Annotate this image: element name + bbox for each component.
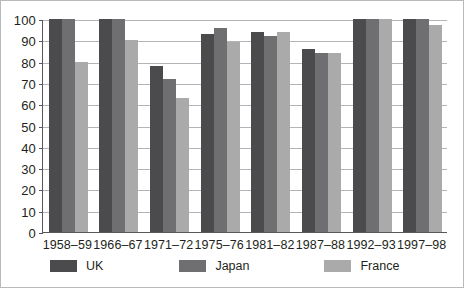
bar-uk: [403, 19, 416, 232]
bar-japan: [315, 53, 328, 232]
bar-france: [379, 19, 392, 232]
chart-legend: UK Japan France: [42, 259, 447, 273]
bar-japan: [366, 19, 379, 232]
bar-chart-figure: 0102030405060708090100 1958–591966–67197…: [0, 0, 464, 288]
bar-france: [429, 25, 442, 232]
legend-label-japan: Japan: [215, 259, 249, 273]
x-axis-tick-label: 1975–76: [195, 238, 244, 252]
y-axis-tick-label: 0: [29, 226, 36, 241]
x-axis-tick-label: 1992–93: [346, 238, 395, 252]
legend-item-japan: Japan: [179, 259, 249, 273]
y-axis-tick-label: 60: [21, 98, 36, 113]
bar-group: [397, 20, 448, 232]
bar-france: [227, 42, 240, 232]
bar-japan: [163, 79, 176, 232]
legend-swatch-uk: [50, 260, 77, 272]
y-axis-tick-label: 10: [21, 204, 36, 219]
bar-japan: [214, 28, 227, 232]
y-axis-tick-label: 100: [14, 13, 36, 28]
bar-uk: [353, 19, 366, 232]
bar-group: [296, 20, 347, 232]
y-axis-tick-label: 80: [21, 55, 36, 70]
y-axis-tick-label: 50: [21, 119, 36, 134]
bar-uk: [201, 34, 214, 232]
x-axis-tick-label: 1958–59: [43, 238, 92, 252]
x-axis-tick-label: 1997–98: [397, 238, 446, 252]
y-axis-tick-label: 20: [21, 183, 36, 198]
bar-group: [246, 20, 297, 232]
bar-group: [94, 20, 145, 232]
x-axis-tick-label: 1971–72: [144, 238, 193, 252]
bar-group: [347, 20, 398, 232]
legend-label-france: France: [360, 259, 399, 273]
bar-uk: [99, 19, 112, 232]
legend-label-uk: UK: [86, 259, 103, 273]
y-axis-tick-mark: [39, 233, 43, 234]
bar-japan: [264, 36, 277, 232]
bar-uk: [150, 66, 163, 232]
legend-swatch-france: [324, 260, 351, 272]
bar-japan: [416, 19, 429, 232]
bar-france: [277, 32, 290, 232]
bar-uk: [302, 49, 315, 232]
bar-france: [75, 62, 88, 232]
x-axis-tick-label: 1981–82: [245, 238, 294, 252]
bar-france: [125, 40, 138, 232]
y-axis-tick-label: 90: [21, 34, 36, 49]
bar-japan: [62, 19, 75, 232]
bar-group: [144, 20, 195, 232]
y-axis-tick-label: 30: [21, 162, 36, 177]
bar-group: [195, 20, 246, 232]
x-axis-tick-label: 1987–88: [296, 238, 345, 252]
bar-group: [43, 20, 94, 232]
legend-swatch-japan: [179, 260, 206, 272]
bar-japan: [112, 19, 125, 232]
y-axis-tick-label: 70: [21, 76, 36, 91]
bar-uk: [49, 19, 62, 232]
plot-area: 0102030405060708090100: [42, 20, 447, 233]
bar-france: [176, 98, 189, 232]
legend-item-uk: UK: [50, 259, 103, 273]
y-axis-tick-label: 40: [21, 140, 36, 155]
x-axis-tick-label: 1966–67: [93, 238, 142, 252]
bar-france: [328, 53, 341, 232]
legend-item-france: France: [324, 259, 399, 273]
bar-uk: [251, 32, 264, 232]
